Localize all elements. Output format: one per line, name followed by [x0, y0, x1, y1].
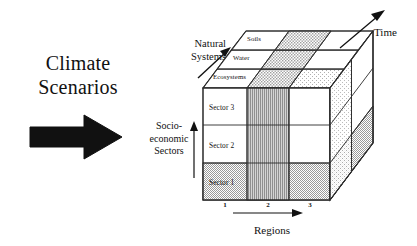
top-band-label-ecosystems: Ecosystems	[213, 73, 246, 80]
socio-economic-sectors-arrow	[190, 121, 198, 178]
region-tick-3: 3	[303, 201, 317, 209]
top-band-label-water: Water	[233, 54, 250, 61]
diagram-canvas: Climate Scenarios Natural Systems Socio-…	[0, 0, 417, 246]
regions-arrow	[233, 209, 303, 217]
cube-graphic	[0, 0, 417, 246]
front-row-label-sector-1: Sector 1	[209, 178, 234, 187]
front-row-label-sector-2: Sector 2	[209, 141, 234, 150]
region-tick-1: 1	[218, 201, 232, 209]
region-tick-2: 2	[261, 201, 275, 209]
top-band-label-soils: Soils	[247, 35, 261, 42]
front-row-label-sector-3: Sector 3	[209, 103, 234, 112]
